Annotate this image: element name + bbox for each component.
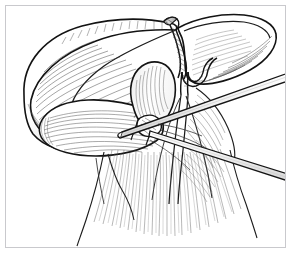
surgical-illustration-canvas	[0, 0, 293, 263]
figure-root: Hepatobiliary dissection line drawing	[0, 0, 293, 263]
